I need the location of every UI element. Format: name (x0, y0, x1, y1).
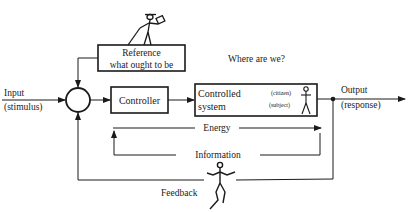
feedback-line-right (236, 101, 333, 180)
output-label: Output (341, 85, 368, 95)
person-icon (301, 87, 311, 114)
output-junction-dot (331, 97, 336, 102)
dancing-figure-icon (207, 162, 235, 209)
reference-label: Reference (122, 48, 161, 58)
citizen-label: (citizen) (271, 90, 291, 97)
walking-figure-icon (128, 15, 165, 46)
information-label: Information (195, 150, 241, 160)
information-arrow (114, 131, 176, 155)
reference-arrow (78, 58, 98, 87)
control-loop-diagram: Reference what ought to be Where are we?… (0, 0, 411, 212)
energy-label: Energy (203, 123, 231, 133)
controller-label: Controller (119, 95, 161, 106)
output-sublabel: (response) (341, 100, 381, 111)
feedback-arrow (78, 113, 204, 180)
reference-sublabel: what ought to be (110, 60, 174, 70)
input-sublabel: (stimulus) (4, 102, 43, 113)
information-line-right (260, 133, 320, 155)
controlled-system-label: Controlled (198, 88, 241, 99)
subject-label: (subject) (269, 102, 290, 109)
feedback-label: Feedback (161, 188, 198, 198)
input-label: Input (4, 88, 24, 98)
summing-junction (66, 88, 90, 112)
question-label: Where are we? (228, 54, 285, 64)
controlled-system-sublabel: system (198, 101, 226, 112)
